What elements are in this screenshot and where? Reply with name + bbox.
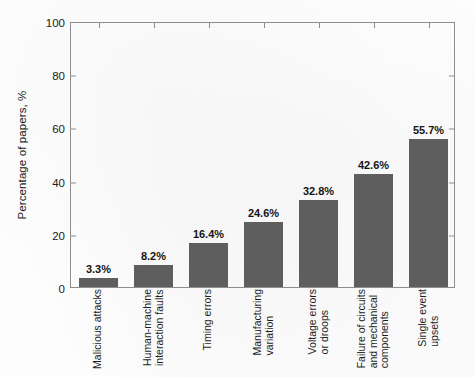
y-axis-tick-mark	[71, 129, 76, 130]
x-axis-tick-mark	[319, 23, 320, 28]
y-axis-tick-mark	[449, 129, 454, 130]
x-axis-category-labels: Malicious attacksHuman-machineinteractio…	[70, 289, 455, 377]
x-axis-category-label-text: Single eventupsets	[416, 289, 439, 347]
x-axis-category-label: Manufacturingvariation	[235, 289, 290, 377]
bar-value-label: 16.4%	[193, 228, 224, 240]
x-axis-tick-mark	[99, 23, 100, 28]
bar-value-label: 3.3%	[86, 263, 111, 275]
x-axis-category-label: Human-machineinteraction faults	[125, 289, 180, 377]
x-axis-category-label: Malicious attacks	[70, 289, 125, 377]
y-axis-tick-mark	[449, 182, 454, 183]
x-axis-tick-mark	[429, 23, 430, 28]
x-axis-category-label: Timing errors	[180, 289, 235, 377]
y-axis-tick-mark	[71, 76, 76, 77]
bar-value-label: 24.6%	[248, 207, 279, 219]
y-axis-tick-mark	[71, 235, 76, 236]
bar: 55.7%	[409, 139, 449, 287]
bar: 8.2%	[134, 265, 174, 287]
x-axis-category-label: Failure of circuitsand mechanicalcompone…	[345, 289, 400, 377]
chart-figure: Percentage of papers, % 0204060801003.3%…	[0, 0, 475, 377]
x-axis-category-label: Single eventupsets	[400, 289, 455, 377]
bar-value-label: 8.2%	[141, 250, 166, 262]
bar-value-label: 32.8%	[303, 185, 334, 197]
y-axis-tick-label: 60	[52, 123, 65, 135]
x-axis-category-label-text: Human-machineinteraction faults	[141, 289, 164, 366]
bar: 42.6%	[354, 174, 394, 287]
y-axis-tick-mark	[71, 182, 76, 183]
bar-value-label: 55.7%	[413, 124, 444, 136]
x-axis-category-label-text: Voltage errorsor droops	[306, 289, 329, 354]
x-axis-category-label-text: Failure of circuitsand mechanicalcompone…	[355, 289, 390, 368]
y-axis-tick-label: 20	[52, 230, 65, 242]
bar: 3.3%	[79, 278, 119, 287]
x-axis-category-label-text: Manufacturingvariation	[251, 289, 274, 356]
x-axis-category-label: Voltage errorsor droops	[290, 289, 345, 377]
bar: 16.4%	[189, 243, 229, 287]
x-axis-tick-mark	[209, 23, 210, 28]
x-axis-category-label-text: Timing errors	[202, 289, 214, 350]
plot-area: 0204060801003.3%8.2%16.4%24.6%32.8%42.6%…	[70, 22, 455, 288]
y-axis-tick-label: 80	[52, 70, 65, 82]
x-axis-tick-mark	[374, 23, 375, 28]
y-axis-tick-mark	[449, 235, 454, 236]
bar-value-label: 42.6%	[358, 159, 389, 171]
y-axis-tick-label: 100	[46, 17, 65, 29]
x-axis-tick-mark	[154, 23, 155, 28]
y-axis-tick-label: 40	[52, 177, 65, 189]
y-axis-tick-mark	[449, 76, 454, 77]
bar: 32.8%	[299, 200, 339, 287]
y-axis-title: Percentage of papers, %	[16, 22, 32, 288]
x-axis-category-label-text: Malicious attacks	[92, 289, 104, 369]
y-axis-tick-label: 0	[59, 283, 65, 295]
x-axis-tick-mark	[264, 23, 265, 28]
bar: 24.6%	[244, 222, 284, 287]
